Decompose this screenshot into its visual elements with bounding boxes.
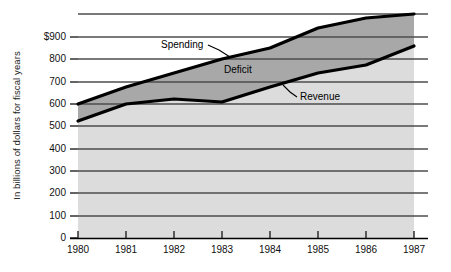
y-tick-label-300: 300 [22,165,66,176]
x-tick-label-1985: 1985 [298,244,338,255]
plot-area [0,0,451,272]
x-tick-label-1983: 1983 [202,244,242,255]
y-tick-label-600: 600 [22,98,66,109]
y-tick-label-500: 500 [22,120,66,131]
y-axis-ticks [70,37,78,238]
x-tick-label-1986: 1986 [346,244,386,255]
deficit-band-label: Deficit [224,64,252,75]
x-tick-label-1981: 1981 [106,244,146,255]
spending-series-label: Spending [161,39,203,50]
y-tick-label-900: $900 [22,31,66,42]
x-tick-label-1984: 1984 [250,244,290,255]
revenue-series-label: Revenue [300,91,340,102]
y-tick-label-0: 0 [22,232,66,243]
x-tick-label-1980: 1980 [58,244,98,255]
deficit-spending-area-chart: In billions of dollars for fiscal years [0,0,451,272]
y-tick-label-800: 800 [22,53,66,64]
x-tick-label-1982: 1982 [154,244,194,255]
x-tick-label-1987: 1987 [394,244,434,255]
y-tick-label-700: 700 [22,76,66,87]
spending-leader-line [208,45,230,57]
y-tick-label-400: 400 [22,143,66,154]
y-tick-label-100: 100 [22,210,66,221]
y-tick-label-200: 200 [22,187,66,198]
